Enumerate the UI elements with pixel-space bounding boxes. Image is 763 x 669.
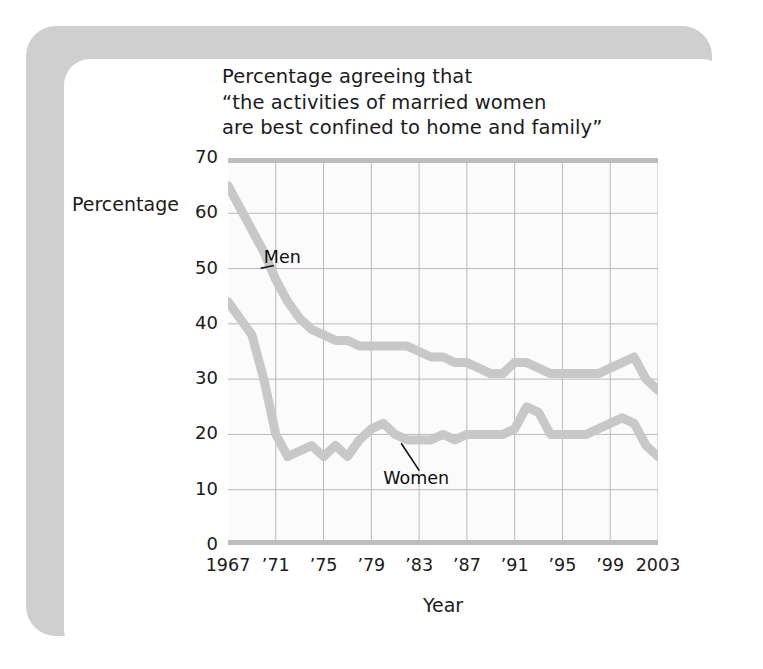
x-tick-label: 1967 [206,555,251,575]
x-tick-label: ’83 [405,555,433,575]
chart-title: Percentage agreeing that “the activities… [222,64,652,141]
x-tick-label: ’87 [453,555,481,575]
x-tick-label: ’95 [549,555,577,575]
y-tick-label: 50 [174,257,218,278]
y-tick-label: 30 [174,367,218,388]
y-axis-label: Percentage [72,193,179,215]
y-tick-label: 0 [174,533,218,554]
series-label-men: Men [264,247,301,267]
y-tick-label: 70 [174,146,218,167]
x-tick-label: ’91 [501,555,529,575]
x-axis-label: Year [228,594,658,616]
series-label-women: Women [383,468,449,488]
y-tick-label: 10 [174,478,218,499]
y-tick-label: 40 [174,312,218,333]
x-tick-label: 2003 [636,555,681,575]
x-tick-label: ’75 [310,555,338,575]
x-tick-label: ’79 [357,555,385,575]
x-tick-label: ’99 [596,555,624,575]
x-tick-label: ’71 [262,555,290,575]
y-tick-label: 60 [174,201,218,222]
y-tick-label: 20 [174,422,218,443]
chart-figure: Percentage agreeing that “the activities… [0,0,763,669]
